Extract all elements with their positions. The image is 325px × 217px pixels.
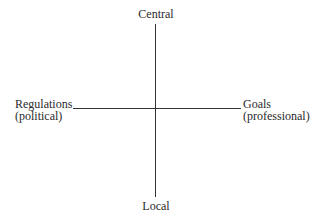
axis-label-central-text: Central [138, 7, 173, 21]
axis-label-regulations: Regulations (political) [15, 98, 72, 122]
axis-label-regulations-line2: (political) [15, 110, 72, 122]
axis-label-central: Central [138, 8, 173, 20]
axis-label-goals-line2: (professional) [243, 110, 310, 122]
axis-label-local: Local [142, 200, 169, 212]
vertical-axis-line [155, 24, 156, 197]
horizontal-axis-line [73, 108, 241, 109]
axis-label-goals: Goals (professional) [243, 98, 310, 122]
axis-label-local-text: Local [142, 199, 169, 213]
